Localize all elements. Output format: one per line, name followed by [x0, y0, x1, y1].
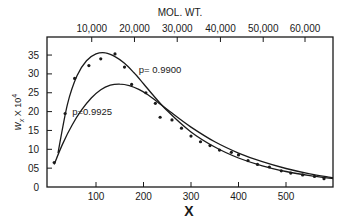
curve-p-0-9925 — [54, 84, 333, 178]
top-tick-label: 10,000 — [76, 23, 107, 34]
data-point — [144, 91, 147, 94]
x-tick-label: 200 — [135, 191, 152, 202]
data-point — [268, 165, 271, 168]
svg-text:wx X 104: wx X 104 — [11, 94, 25, 130]
y-axis-ticks: 005101520253035 — [28, 50, 52, 193]
data-point — [280, 169, 283, 172]
y-tick-label: 20 — [28, 106, 40, 117]
data-point — [123, 66, 126, 69]
y-tick-label: 0 — [33, 182, 39, 193]
y-axis-title: wx X 104 — [11, 94, 25, 130]
y-tick-label: 25 — [28, 87, 40, 98]
data-point — [64, 112, 67, 115]
x-tick-label: 400 — [230, 191, 247, 202]
y-tick-label: 05 — [28, 163, 40, 174]
data-point — [289, 171, 292, 174]
data-point — [199, 140, 202, 143]
data-point — [208, 144, 211, 147]
y-tick-label: 35 — [28, 50, 40, 61]
x-axis-title: X — [184, 203, 194, 219]
data-point — [237, 153, 240, 156]
x-tick-label: 300 — [183, 191, 200, 202]
top-tick-label: 50,000 — [248, 23, 279, 34]
data-point — [322, 177, 325, 180]
y-axis-title-exponent: 4 — [11, 94, 18, 98]
top-axis-title: MOL. WT. — [158, 7, 202, 18]
data-point — [130, 83, 133, 86]
y-axis-title-factor: X 10 — [13, 98, 23, 119]
data-point — [313, 175, 316, 178]
curve-label: p=0.9925 — [72, 106, 112, 117]
data-point — [230, 151, 233, 154]
data-point — [301, 173, 304, 176]
x-tick-label: 100 — [88, 191, 105, 202]
y-tick-label: 10 — [28, 144, 40, 155]
y-tick-label: 30 — [28, 68, 40, 79]
data-point — [87, 64, 90, 67]
data-point — [154, 102, 157, 105]
data-point — [180, 127, 183, 130]
data-point — [53, 161, 56, 164]
top-axis-ticks: 10,00020,00030,00040,00050,00060,000 — [76, 23, 320, 42]
data-point — [99, 57, 102, 60]
top-tick-label: 40,000 — [205, 23, 236, 34]
curve-label: p= 0.9900 — [139, 64, 182, 75]
chart: 005101520253035 100200300400500 10,00020… — [0, 0, 348, 222]
top-tick-label: 20,000 — [119, 23, 150, 34]
top-tick-label: 30,000 — [162, 23, 193, 34]
x-tick-label: 500 — [278, 191, 295, 202]
data-point — [218, 148, 221, 151]
data-point — [246, 159, 249, 162]
top-tick-label: 60,000 — [290, 23, 321, 34]
x-axis-ticks: 100200300400500 — [88, 182, 295, 202]
data-point — [256, 163, 259, 166]
y-tick-label: 15 — [28, 125, 40, 136]
data-point — [73, 77, 76, 80]
data-point — [113, 52, 116, 55]
data-point — [189, 135, 192, 138]
data-point — [170, 118, 173, 121]
data-point — [159, 116, 162, 119]
